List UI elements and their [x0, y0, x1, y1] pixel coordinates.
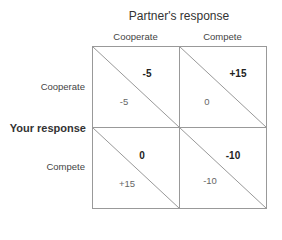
cell-0-0-partner-payoff: -5: [132, 68, 162, 79]
cell-diagonal-1-1: [180, 128, 267, 209]
cell-0-1-partner-payoff: +15: [223, 68, 253, 79]
cell-diagonal-0-1: [180, 47, 267, 128]
cell-1-0-your-payoff: +15: [112, 178, 142, 189]
cell-1-0-partner-payoff: 0: [127, 150, 157, 161]
cell-diagonal-0-0: [93, 47, 180, 128]
cell-1-1-partner-payoff: -10: [218, 150, 248, 161]
cell-0-0-your-payoff: -5: [109, 96, 139, 107]
cell-diagonal-1-0: [93, 128, 180, 209]
cell-1-1-your-payoff: -10: [195, 175, 225, 186]
cell-0-1-your-payoff: 0: [192, 96, 222, 107]
